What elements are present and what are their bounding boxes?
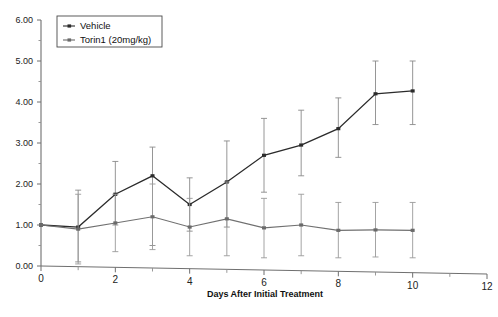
y-axis-tick-label: 6.00 <box>15 15 33 25</box>
legend-entry-label: Vehicle <box>80 20 111 31</box>
data-point-marker <box>151 174 155 177</box>
y-axis-tick-label: 5.00 <box>15 56 33 66</box>
data-point-marker <box>188 225 192 228</box>
data-point-marker <box>262 226 266 229</box>
data-point-marker <box>39 223 43 226</box>
series-vehicle <box>39 61 416 262</box>
chart-legend[interactable]: VehicleTorin1 (20mg/kg) <box>57 16 162 47</box>
plot-area: 0.001.002.003.004.005.006.00024681012 Ve… <box>15 15 493 299</box>
data-point-marker <box>336 127 340 130</box>
data-point-marker <box>299 143 303 146</box>
data-point-marker <box>374 228 378 231</box>
data-point-marker <box>336 229 340 232</box>
x-axis-tick-label: 6 <box>261 277 267 288</box>
data-point-marker <box>76 228 80 231</box>
data-point-marker <box>113 221 117 224</box>
x-axis-title: Days After Initial Treatment <box>207 289 323 299</box>
series-torin1 <box>39 182 416 264</box>
x-axis-tick-label: 12 <box>481 281 493 292</box>
x-axis-tick-label: 10 <box>407 280 419 291</box>
x-axis-tick-label: 4 <box>187 276 193 287</box>
legend-point-marker-icon <box>68 38 72 41</box>
data-point-marker <box>151 215 155 218</box>
data-point-marker <box>411 229 415 232</box>
y-axis-tick-label: 4.00 <box>15 97 33 107</box>
y-axis-tick-label: 0.00 <box>15 261 33 271</box>
x-axis-tick-label: 2 <box>113 274 119 285</box>
data-series-layer <box>39 61 416 264</box>
legend-entry-label: Torin1 (20mg/kg) <box>80 34 151 45</box>
legend-point-marker-icon <box>68 24 72 27</box>
chart-figure: 0.001.002.003.004.005.006.00024681012 Ve… <box>0 0 498 317</box>
data-point-marker <box>411 89 415 92</box>
y-axis-tick-label: 2.00 <box>15 179 33 189</box>
y-axis-tick-label: 1.00 <box>15 220 33 230</box>
x-axis-tick-label: 0 <box>38 273 44 284</box>
data-point-marker <box>299 223 303 226</box>
data-point-marker <box>374 92 378 95</box>
data-point-marker <box>262 154 266 157</box>
axes: 0.001.002.003.004.005.006.00024681012 <box>15 15 493 292</box>
y-axis-tick-label: 3.00 <box>15 138 33 148</box>
x-axis-tick-label: 8 <box>336 278 342 289</box>
data-point-marker <box>225 217 229 220</box>
